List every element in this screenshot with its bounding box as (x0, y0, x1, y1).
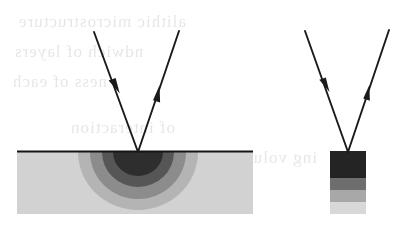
figure-root: alithic microstructurendwich of layersne… (0, 0, 408, 233)
incident-beam-line (94, 32, 138, 152)
interaction-volume-layers (330, 151, 366, 214)
incident-beam-arrowhead (319, 78, 329, 92)
bulk-specimen-panel (17, 31, 253, 214)
layer-3-mid (330, 190, 366, 202)
thin-film-panel (305, 30, 389, 214)
layer-2-dark (330, 178, 366, 190)
emergent-beam-arrowhead (363, 85, 370, 101)
layer-1-darkest (330, 151, 366, 178)
emergent-beam-arrowhead (153, 85, 160, 102)
interaction-volume-figure (0, 0, 408, 233)
incident-beam-line (305, 31, 348, 152)
layer-4-light (330, 202, 366, 214)
incident-beam-arrowhead (109, 78, 120, 94)
